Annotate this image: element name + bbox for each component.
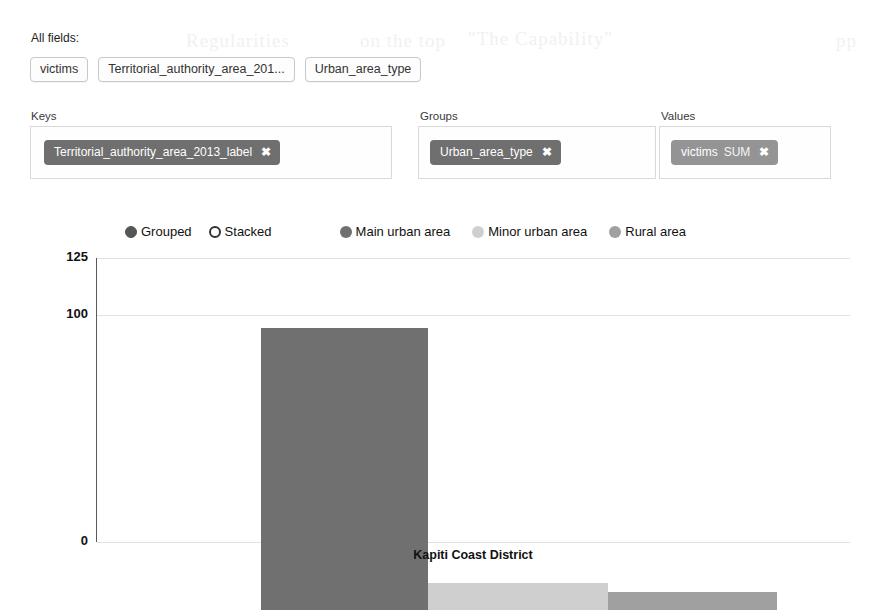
bleed-text-4: pp (836, 30, 857, 52)
y-tick-label-125: 125 (28, 249, 88, 264)
keys-pill-territorial-authority-area-2013-label[interactable]: Territorial_authority_area_2013_label ✖ (44, 140, 280, 165)
groups-pill-remove-icon[interactable]: ✖ (542, 147, 552, 158)
values-pill-remove-icon[interactable]: ✖ (759, 147, 769, 158)
legend-label-minor-urban-area: Minor urban area (488, 224, 587, 239)
bleed-text-1: Regularities (186, 30, 290, 52)
values-pill-label: victims (681, 145, 718, 159)
groups-pill-label: Urban_area_type (440, 145, 533, 159)
legend-swatch-main-urban-area (340, 226, 352, 238)
values-pill-victims-sum[interactable]: victims SUM ✖ (671, 140, 778, 165)
page-bleed-through: Regularities on the top "The Capability"… (0, 8, 882, 54)
bar-chart: 1251000 Kapiti Coast District (0, 250, 882, 610)
keys-pill-label: Territorial_authority_area_2013_label (54, 145, 252, 159)
legend-item-main-urban-area[interactable]: Main urban area (340, 224, 451, 239)
legend-swatch-minor-urban-area (472, 226, 484, 238)
keys-shelf-label: Keys (31, 110, 57, 122)
legend-item-rural-area[interactable]: Rural area (609, 224, 686, 239)
legend-swatch-rural-area (609, 226, 621, 238)
keys-pill-remove-icon[interactable]: ✖ (261, 147, 271, 158)
field-chip-urban-area-type[interactable]: Urban_area_type (305, 57, 422, 82)
radio-stacked[interactable]: Stacked (209, 224, 272, 239)
bar-rural-area[interactable] (608, 592, 777, 610)
all-fields-list: victims Territorial_authority_area_201..… (30, 57, 421, 82)
radio-stacked-icon[interactable] (209, 226, 221, 238)
chart-controls-and-legend: Grouped Stacked Main urban area Minor ur… (125, 224, 686, 239)
y-tick-label-0: 0 (28, 533, 88, 548)
radio-grouped-icon[interactable] (125, 226, 137, 238)
radio-stacked-label: Stacked (225, 224, 272, 239)
bleed-text-2: on the top (360, 30, 446, 52)
groups-pill-urban-area-type[interactable]: Urban_area_type ✖ (430, 140, 561, 165)
bleed-text-3: "The Capability" (468, 28, 613, 50)
all-fields-label: All fields: (31, 31, 79, 45)
field-chip-territorial-authority-area[interactable]: Territorial_authority_area_201... (98, 57, 295, 82)
x-axis-label: Kapiti Coast District (96, 548, 850, 562)
y-tick-label-100: 100 (28, 306, 88, 321)
values-pill-aggregation[interactable]: SUM (724, 145, 751, 159)
bar-main-urban-area[interactable] (261, 328, 428, 610)
legend-label-main-urban-area: Main urban area (356, 224, 451, 239)
radio-grouped[interactable]: Grouped (125, 224, 192, 239)
radio-grouped-label: Grouped (141, 224, 192, 239)
groups-shelf-label: Groups (420, 110, 458, 122)
field-chip-victims[interactable]: victims (30, 57, 88, 82)
legend-item-minor-urban-area[interactable]: Minor urban area (472, 224, 587, 239)
values-shelf-label: Values (661, 110, 695, 122)
legend-label-rural-area: Rural area (625, 224, 686, 239)
bar-minor-urban-area[interactable] (428, 583, 608, 610)
